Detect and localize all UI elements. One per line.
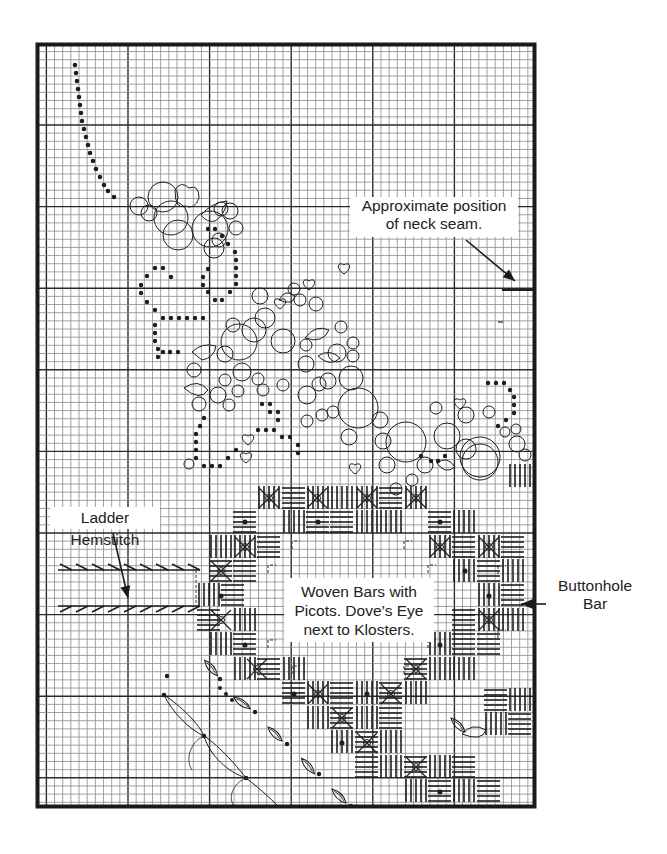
label-ladder-hemstitch: Ladder Hemstitch [50, 507, 160, 529]
label-neck-seam: Approximate position of neck seam. [350, 197, 518, 237]
needlework-chart [0, 0, 667, 854]
label-woven-bars: Woven Bars with Picots. Dove’s Eye next … [284, 578, 434, 642]
callout-arrows [113, 240, 546, 609]
label-buttonhole-bar: Buttonhole Bar [550, 577, 640, 613]
